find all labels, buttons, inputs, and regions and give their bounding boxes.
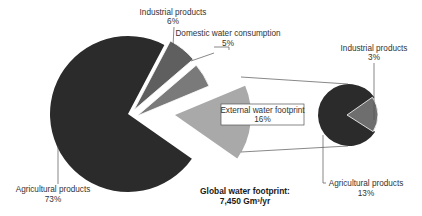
domestic-label-name: Domestic water consumption [175,29,281,38]
breakdown-pie [318,84,378,146]
small-agricultural-label-name: Agricultural products [329,179,404,188]
small-agricultural-label-pct: 13% [358,189,374,198]
industrial-label-pct: 6% [167,17,179,26]
external-label-pct: 16% [254,115,270,124]
agricultural-label-pct: 73% [45,195,61,204]
external-label-name: External water footprint [220,106,305,115]
small-industrial-label-pct: 3% [368,53,380,62]
small-industrial-label-name: Industrial products [341,44,408,53]
chart-title-line1: Global water footprint: [200,186,290,196]
industrial-label-name: Industrial products [140,8,207,17]
agricultural-label-name: Agricultural products [16,185,91,194]
water-footprint-chart: External water footprint 16% Industrial … [0,0,422,216]
domestic-label-pct: 5% [222,39,234,48]
chart-title-line2: 7,450 Gm³/yr [220,196,271,206]
